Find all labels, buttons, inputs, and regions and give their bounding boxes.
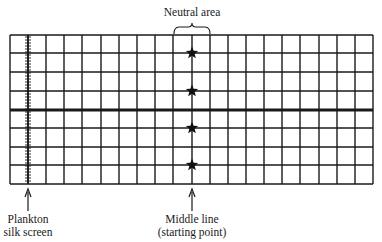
middle-line-label-line2: (starting point) bbox=[152, 226, 232, 239]
aquarium-grid-diagram bbox=[0, 0, 382, 242]
brace-icon bbox=[174, 23, 210, 34]
neutral-area-label: Neutral area bbox=[158, 6, 226, 19]
middle-line-label: Middle line (starting point) bbox=[152, 213, 232, 239]
plankton-silk-screen-label: Plankton silk screen bbox=[0, 213, 56, 239]
pointer-arrows bbox=[25, 189, 195, 211]
plankton-label-line2: silk screen bbox=[0, 226, 56, 239]
plankton-label-line1: Plankton bbox=[0, 213, 56, 226]
middle-line-label-line1: Middle line bbox=[152, 213, 232, 226]
neutral-area-brace bbox=[174, 23, 210, 34]
